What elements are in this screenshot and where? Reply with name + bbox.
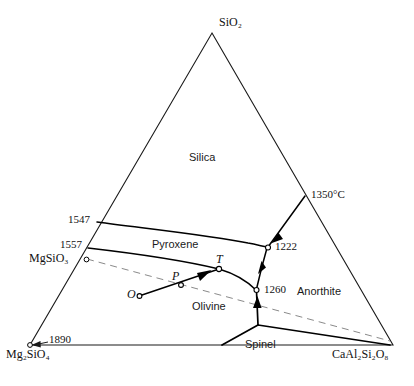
point-label-t: T <box>216 253 223 265</box>
temp-label-1557: 1557 <box>60 239 82 250</box>
temp-label-1547: 1547 <box>68 214 90 225</box>
temp-label-1260: 1260 <box>264 284 286 295</box>
spinel-right-boundary <box>258 325 390 345</box>
marker-point-p <box>179 283 184 288</box>
point-label-o: O <box>127 288 136 300</box>
temp-label-1890: 1890 <box>49 334 71 345</box>
edge-label-enstatite: MgSiO₃ <box>29 252 69 264</box>
marker-1222 <box>266 245 271 250</box>
spinel-olivine-boundary <box>253 291 262 325</box>
phase-field-label-olivine: Olivine <box>192 301 226 312</box>
marker-1260 <box>254 288 259 293</box>
point-label-p: P <box>172 270 179 282</box>
temp-label-1222: 1222 <box>275 241 297 252</box>
phase-field-label-pyroxene: Pyroxene <box>152 239 198 250</box>
marker-mgsio3 <box>84 257 89 262</box>
marker-point-o <box>137 294 142 299</box>
phase-field-label-anorthite: Anorthite <box>297 286 341 297</box>
corner-label-forsterite: Mg₂SiO₄ <box>6 348 50 360</box>
phase-field-label-silica: Silica <box>189 152 215 163</box>
corner-label-sio2: SiO₂ <box>219 16 242 28</box>
phase-diagram-canvas <box>0 0 414 386</box>
marker-point-t <box>216 266 221 271</box>
ternary-phase-diagram: SiO₂ Mg₂SiO₄ CaAl₂Si₂O₈ MgSiO₃ 1547 1557… <box>0 0 414 386</box>
phase-field-label-spinel: Spinel <box>245 339 276 350</box>
temp-label-1350c: 1350°C <box>311 189 345 200</box>
corner-label-anorthite-endmember: CaAl₂Si₂O₈ <box>332 348 389 360</box>
